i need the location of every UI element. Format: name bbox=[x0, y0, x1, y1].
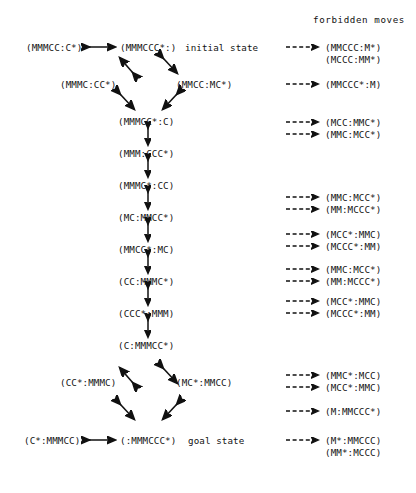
state-node-chain-6: (CC:MMMC*) bbox=[118, 276, 174, 287]
state-node-d1-left: (MMMC:CC*) bbox=[60, 79, 116, 90]
edge-top-to-d1right bbox=[163, 58, 177, 73]
state-node-chain-8: (C:MMMCC*) bbox=[118, 340, 174, 351]
forbidden-move-label: (MMCCC:M*) bbox=[325, 42, 381, 53]
forbidden-move-label: (M:MMCCC*) bbox=[325, 406, 381, 417]
state-node-chain-7: (CCC*:MMM) bbox=[118, 308, 174, 319]
forbidden-move-label: (MMCCC*:M) bbox=[325, 79, 381, 90]
edge-chain8-to-d2right bbox=[163, 368, 177, 383]
forbidden-move-label: (MCCC*:MM) bbox=[325, 241, 381, 252]
forbidden-move-label: (MMC:MCC*) bbox=[325, 129, 381, 140]
initial-state-label: initial state bbox=[185, 42, 258, 53]
edge-d2right-to-bottom bbox=[163, 404, 177, 419]
forbidden-move-label: (MCCC:MM*) bbox=[325, 54, 381, 65]
state-node-d2-right: (MC*:MMCC) bbox=[176, 377, 232, 388]
forbidden-move-label: (MCC:MMC*) bbox=[325, 117, 381, 128]
state-node-chain-3: (MMMC*:CC) bbox=[118, 180, 174, 191]
edge-top-to-d1left bbox=[120, 58, 133, 73]
forbidden-move-label: (MM:MCCC*) bbox=[325, 276, 381, 287]
state-node-d2-left: (CC*:MMMC) bbox=[60, 377, 116, 388]
forbidden-move-label: (MMC:MCC*) bbox=[325, 192, 381, 203]
state-node-chain-1: (MMMCC*:C) bbox=[118, 116, 174, 127]
forbidden-move-label: (MCC*:MMC) bbox=[325, 229, 381, 240]
forbidden-move-label: (MCC*:MMC) bbox=[325, 296, 381, 307]
goal-state-label: goal state bbox=[188, 435, 244, 446]
state-node-initial: (MMMCCC*:) bbox=[120, 42, 176, 53]
state-node-top-left: (MMMCC:C*) bbox=[26, 42, 82, 53]
forbidden-move-label: (MCC*:MMC) bbox=[325, 382, 381, 393]
state-node-chain-2: (MMM:CCC*) bbox=[118, 148, 174, 159]
edge-chain8-to-d2left bbox=[120, 368, 133, 383]
state-space-diagram: forbidden moves (MMMCC:C*) (MMMCCC*:) in… bbox=[0, 0, 416, 493]
state-node-chain-4: (MC:MMCC*) bbox=[118, 212, 174, 223]
forbidden-move-label: (MMC:MCC*) bbox=[325, 264, 381, 275]
forbidden-move-label: (MMC*:MCC) bbox=[325, 370, 381, 381]
edge-d1left-to-chain1 bbox=[120, 94, 134, 109]
state-node-d1-right: (MMCC:MC*) bbox=[176, 79, 232, 90]
edge-d2left-to-bottom bbox=[120, 404, 134, 419]
forbidden-move-label: (MM:MCCC*) bbox=[325, 204, 381, 215]
edge-d1right-to-chain1 bbox=[163, 94, 177, 109]
forbidden-moves-heading: forbidden moves bbox=[313, 14, 405, 25]
state-node-goal: (:MMMCCC*) bbox=[120, 435, 176, 446]
forbidden-move-label: (MM*:MCCC) bbox=[325, 447, 381, 458]
state-node-chain-5: (MMCC*:MC) bbox=[118, 244, 174, 255]
forbidden-move-label: (M*:MMCCC) bbox=[325, 435, 381, 446]
state-node-bottom-left: (C*:MMMCC) bbox=[24, 435, 80, 446]
forbidden-move-label: (MCCC*:MM) bbox=[325, 308, 381, 319]
